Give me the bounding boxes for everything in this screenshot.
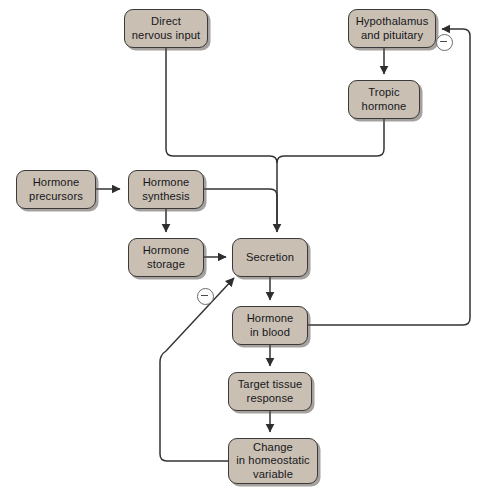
node-hormone-synthesis[interactable]: Hormone synthesis (128, 170, 204, 209)
node-change-in-homeostatic-variable[interactable]: Change in homeostatic variable (228, 438, 318, 484)
node-secretion[interactable]: Secretion (232, 238, 308, 277)
node-label: Hormone in blood (247, 312, 294, 339)
node-hormone-storage[interactable]: Hormone storage (128, 238, 204, 277)
node-label: Change in homeostatic variable (236, 441, 310, 482)
connector-junction-to-secretion (270, 156, 277, 232)
connector-junction-right-stub (277, 156, 284, 163)
node-label: Direct nervous input (132, 15, 200, 42)
node-label: Hormone precursors (29, 176, 83, 203)
flowchart-canvas: Direct nervous input Hypothalamus and pi… (0, 0, 482, 489)
node-hormone-in-blood[interactable]: Hormone in blood (232, 306, 308, 345)
negative-feedback-minus-icon-short-loop (197, 288, 214, 305)
node-label: Hormone synthesis (142, 176, 190, 203)
negative-feedback-minus-icon-long-loop (436, 34, 453, 51)
connector-direct-nervous-input-to-junction (166, 48, 270, 156)
node-label: Hormone storage (143, 244, 190, 271)
node-label: Target tissue response (238, 378, 303, 405)
connector-tropic-hormone-to-junction (284, 119, 384, 156)
node-hypothalamus-and-pituitary[interactable]: Hypothalamus and pituitary (348, 9, 436, 48)
node-direct-nervous-input[interactable]: Direct nervous input (124, 9, 208, 48)
connector-hormone-in-blood-to-hypothalamus-feedback (308, 29, 470, 325)
node-label: Secretion (246, 251, 294, 265)
node-hormone-precursors[interactable]: Hormone precursors (16, 170, 96, 209)
node-label: Hypothalamus and pituitary (356, 15, 429, 42)
node-label: Tropic hormone (362, 86, 407, 113)
connector-change-to-secretion-feedback (160, 278, 234, 461)
node-target-tissue-response[interactable]: Target tissue response (228, 372, 312, 411)
node-tropic-hormone[interactable]: Tropic hormone (348, 80, 420, 119)
connector-hormone-synthesis-to-secretion (204, 189, 277, 232)
